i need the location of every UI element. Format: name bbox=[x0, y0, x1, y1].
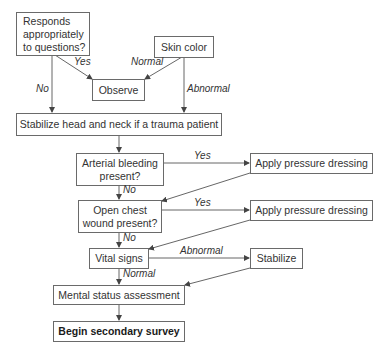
node-apply-pressure-dressing-1: Apply pressure dressing bbox=[250, 153, 373, 174]
node-vital-signs: Vital signs bbox=[89, 248, 149, 269]
node-observe-label: Observe bbox=[99, 84, 139, 97]
node-open-chest-label: Open chest wound present? bbox=[79, 204, 161, 230]
edge-label-arterial-no: No bbox=[123, 184, 136, 195]
edge-label-vital-abnormal: Abnormal bbox=[180, 245, 223, 256]
node-stabilize: Stabilize bbox=[250, 248, 303, 269]
node-responds-label: Responds appropriately to questions? bbox=[23, 15, 89, 54]
node-secondary-survey-label: Begin secondary survey bbox=[58, 325, 179, 338]
node-open-chest-wound: Open chest wound present? bbox=[78, 200, 162, 233]
node-apply1-label: Apply pressure dressing bbox=[255, 157, 368, 170]
node-begin-secondary-survey: Begin secondary survey bbox=[53, 321, 185, 342]
edge-label-chest-no: No bbox=[123, 232, 136, 243]
node-apply-pressure-dressing-2: Apply pressure dressing bbox=[250, 200, 373, 221]
node-skin-color-label: Skin color bbox=[161, 41, 207, 54]
edge-label-skin-abnormal: Abnormal bbox=[187, 83, 230, 94]
edge-label-chest-yes: Yes bbox=[194, 197, 211, 208]
edge-label-responds-no: No bbox=[36, 83, 49, 94]
node-responds-appropriately: Responds appropriately to questions? bbox=[16, 12, 90, 56]
node-arterial-label: Arterial bleeding present? bbox=[77, 157, 163, 183]
node-observe: Observe bbox=[92, 79, 145, 101]
edge-label-arterial-yes: Yes bbox=[194, 150, 211, 161]
node-skin-color: Skin color bbox=[154, 36, 214, 58]
node-mental-status-label: Mental status assessment bbox=[58, 289, 179, 302]
node-mental-status-assessment: Mental status assessment bbox=[53, 285, 185, 305]
edge-label-vital-normal: Normal bbox=[123, 268, 155, 279]
edge-label-skin-normal: Normal bbox=[131, 56, 163, 67]
node-stabilize-head-neck: Stabilize head and neck if a trauma pati… bbox=[16, 113, 222, 136]
node-apply2-label: Apply pressure dressing bbox=[255, 204, 368, 217]
edge-label-responds-yes: Yes bbox=[74, 56, 91, 67]
node-vital-signs-label: Vital signs bbox=[95, 252, 143, 265]
node-stabilize-head-label: Stabilize head and neck if a trauma pati… bbox=[20, 118, 218, 131]
node-arterial-bleeding: Arterial bleeding present? bbox=[76, 153, 164, 186]
node-stabilize-label: Stabilize bbox=[257, 252, 297, 265]
